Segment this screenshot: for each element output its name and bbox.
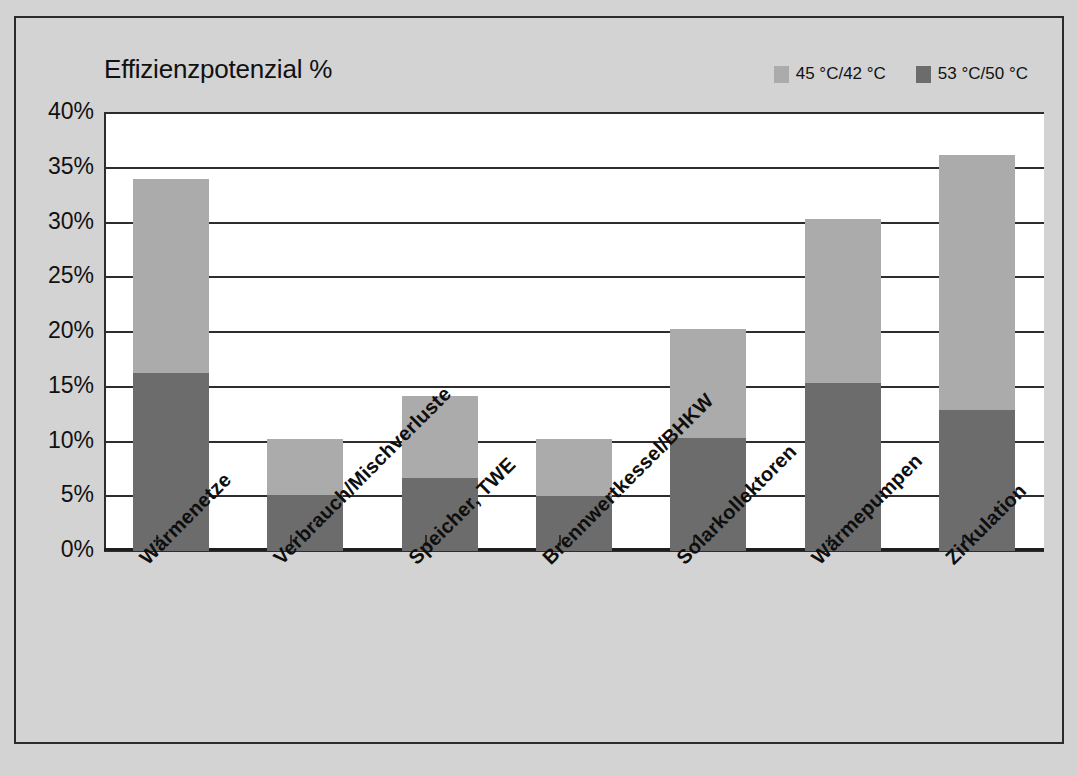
- legend-label: 53 °C/50 °C: [938, 64, 1028, 84]
- bar-segment-45-42[interactable]: [267, 439, 343, 495]
- legend-label: 45 °C/42 °C: [796, 64, 886, 84]
- bar-group[interactable]: [670, 113, 746, 551]
- bar-group[interactable]: [402, 113, 478, 551]
- y-axis-line: [104, 113, 106, 551]
- y-axis-tick-label: 5%: [24, 481, 94, 508]
- y-axis-tick-label: 15%: [24, 372, 94, 399]
- bar-segment-45-42[interactable]: [805, 219, 881, 383]
- legend-item-45-42: 45 °C/42 °C: [774, 64, 886, 84]
- figure-frame: Effizienzpotenzial % 45 °C/42 °C 53 °C/5…: [14, 16, 1064, 744]
- y-axis-tick-label: 10%: [24, 427, 94, 454]
- bar-segment-45-42[interactable]: [939, 155, 1015, 410]
- bar-group[interactable]: [939, 113, 1015, 551]
- legend-item-53-50: 53 °C/50 °C: [916, 64, 1028, 84]
- bar-group[interactable]: [536, 113, 612, 551]
- figure-page: Effizienzpotenzial % 45 °C/42 °C 53 °C/5…: [0, 0, 1078, 776]
- bar-group[interactable]: [267, 113, 343, 551]
- legend-swatch-icon: [774, 66, 789, 83]
- y-axis-tick-label: 35%: [24, 153, 94, 180]
- y-axis-tick-label: 0%: [24, 536, 94, 563]
- y-axis-tick-label: 40%: [24, 98, 94, 125]
- chart-title: Effizienzpotenzial %: [104, 54, 332, 85]
- bar-segment-45-42[interactable]: [536, 439, 612, 496]
- bar-group[interactable]: [133, 113, 209, 551]
- y-axis-tick-label: 20%: [24, 317, 94, 344]
- chart-legend: 45 °C/42 °C 53 °C/50 °C: [774, 64, 1028, 84]
- bottom-caption: [16, 762, 1062, 776]
- y-axis-tick-label: 30%: [24, 208, 94, 235]
- bar-group[interactable]: [805, 113, 881, 551]
- bar-segment-45-42[interactable]: [133, 179, 209, 373]
- legend-swatch-icon: [916, 66, 931, 83]
- y-axis-tick-label: 25%: [24, 262, 94, 289]
